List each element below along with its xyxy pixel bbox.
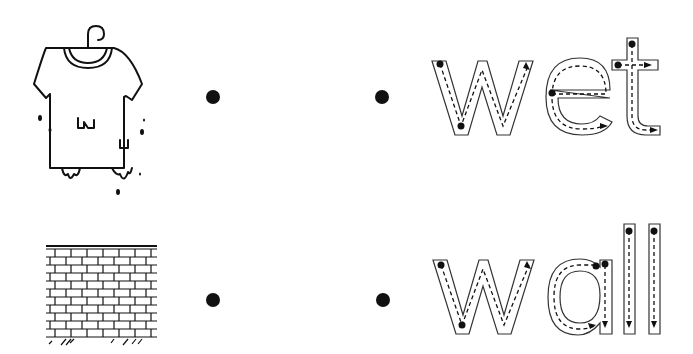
row-word: wall	[0, 0, 1, 1]
match-dot-left[interactable]	[206, 90, 220, 104]
trace-word-wet	[420, 30, 693, 160]
trace-letter-l: l	[0, 0, 1, 1]
trace-letter-w: w	[0, 0, 1, 1]
trace-letter-w: w	[0, 0, 1, 1]
match-dot-right[interactable]	[376, 293, 390, 307]
trace-letter-e: e	[0, 0, 1, 1]
trace-letter-a: a	[0, 0, 1, 1]
trace-letter-l: l	[0, 0, 1, 1]
match-dot-left[interactable]	[206, 293, 220, 307]
brick-wall-icon	[46, 245, 166, 345]
row-word: wet	[0, 0, 1, 1]
match-dot-right[interactable]	[375, 90, 389, 104]
trace-letter-t: t	[0, 0, 1, 1]
trace-word-wall	[420, 215, 693, 354]
wet-tshirt-icon	[20, 22, 140, 182]
